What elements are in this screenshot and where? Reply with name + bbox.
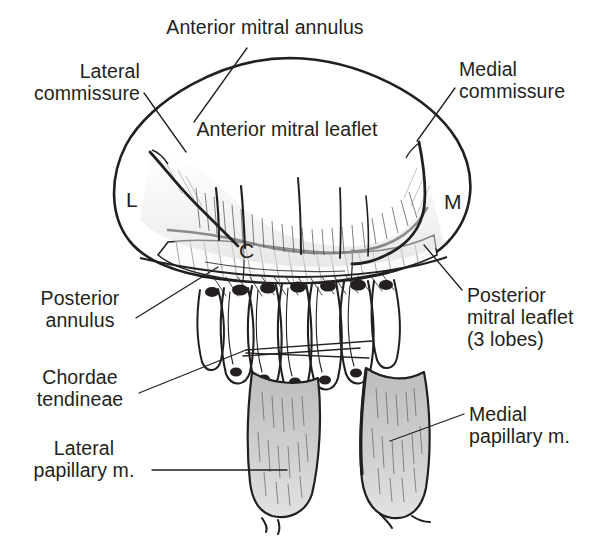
marker-lateral: L — [126, 189, 138, 210]
label-posterior-annulus: Posterior annulus — [24, 287, 136, 331]
marker-medial: M — [444, 191, 462, 212]
label-medial-papillary-muscle: Medial papillary m. — [469, 403, 611, 447]
label-anterior-mitral-leaflet: Anterior mitral leaflet — [188, 118, 386, 140]
label-medial-commissure: Medial commissure — [459, 58, 611, 102]
label-chordae-tendineae: Chordae tendineae — [24, 366, 136, 410]
label-lateral-papillary-muscle: Lateral papillary m. — [20, 437, 148, 481]
posterior-leaflet-leader — [424, 245, 462, 290]
lateral-papillary-muscle — [248, 372, 320, 517]
medial-papillary-muscle — [360, 368, 429, 518]
chordae-leader-a — [139, 350, 246, 393]
label-posterior-mitral-leaflet: Posterior mitral leaflet (3 lobes) — [467, 284, 611, 350]
marker-commissure-center: C — [239, 240, 254, 261]
label-anterior-mitral-annulus: Anterior mitral annulus — [148, 16, 382, 38]
figure-canvas: Anterior mitral annulus Lateral commissu… — [0, 0, 611, 540]
label-lateral-commissure: Lateral commissure — [0, 60, 140, 104]
